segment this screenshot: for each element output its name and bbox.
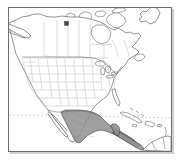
frame-shadow-right xyxy=(172,9,174,154)
frame-shadow-bottom xyxy=(10,152,174,154)
prairie-marker-icon xyxy=(65,22,69,26)
north-america-map xyxy=(0,0,182,164)
map-figure: North America Mexico and Central America… xyxy=(0,0,182,164)
